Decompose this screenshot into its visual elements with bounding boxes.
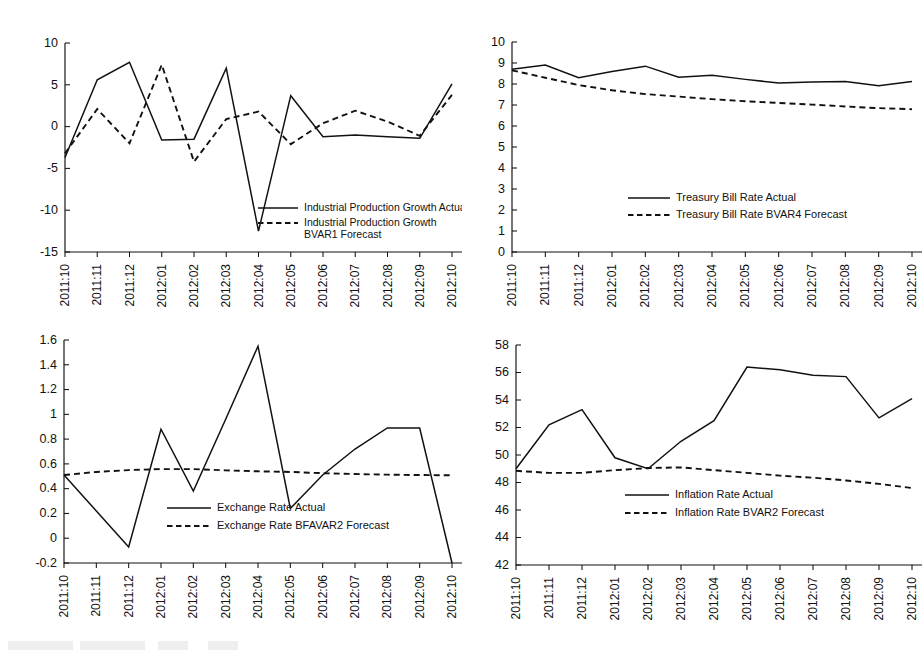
- x-axis-tick-label: 2012:04: [707, 577, 721, 621]
- y-axis-tick-label: 0.4: [40, 481, 57, 495]
- y-axis-tick-label: 0: [50, 531, 57, 545]
- x-axis-tick-label: 2012:05: [283, 575, 297, 619]
- y-axis-tick-label: -0.2: [35, 556, 57, 570]
- x-axis-tick-label: 2012:05: [740, 577, 754, 621]
- y-axis-tick-label: 1.4: [40, 358, 57, 372]
- x-axis-tick-label: 2012:01: [608, 577, 622, 621]
- y-axis-tick-label: 52: [495, 420, 509, 434]
- y-axis-tick-label: 50: [495, 448, 509, 462]
- y-axis-tick-label: -15: [40, 245, 58, 259]
- series-line-forecast: [65, 65, 452, 162]
- x-axis-tick-label: 2011:11: [90, 264, 104, 306]
- x-axis-tick-label: 2012:06: [316, 264, 330, 308]
- x-axis-tick-label: 2011:10: [509, 577, 523, 620]
- x-axis-tick-label: 2012:04: [705, 264, 719, 308]
- chart-panel-exchange-rate: -0.200.20.40.60.811.21.41.62011:102011:1…: [0, 320, 462, 654]
- y-axis-tick-label: 1.6: [40, 333, 57, 347]
- x-axis-tick-label: 2012:02: [638, 264, 652, 308]
- x-axis-tick-label: 2012:09: [872, 577, 886, 621]
- y-axis-tick-label: 10: [491, 35, 505, 49]
- chart-legend: Industrial Production Growth ActualIndus…: [258, 201, 462, 240]
- x-axis-tick-label: 2012:03: [674, 577, 688, 621]
- series-line-actual: [512, 65, 912, 86]
- x-axis-tick-label: 2012:06: [772, 264, 786, 308]
- y-axis-tick-label: 1: [498, 224, 505, 238]
- legend-label: Inflation Rate Actual: [675, 488, 773, 500]
- x-axis-tick-label: 2011:10: [58, 264, 72, 307]
- chart-legend: Exchange Rate ActualExchange Rate BFAVAR…: [167, 501, 389, 531]
- x-axis-tick-label: 2012:02: [187, 264, 201, 308]
- x-axis-tick-label: 2012:08: [839, 577, 853, 621]
- y-axis-tick-label: 1: [50, 407, 57, 421]
- x-axis-tick-label: 2012:09: [413, 264, 427, 308]
- y-axis-tick-label: 48: [495, 475, 509, 489]
- legend-label: Treasury Bill Rate Actual: [676, 191, 796, 203]
- x-axis-tick-label: 2012:09: [413, 575, 427, 619]
- y-axis-tick-label: 3: [498, 182, 505, 196]
- industrial-production-plot: -15-10-505102011:102011:112011:122012:01…: [0, 0, 462, 327]
- x-axis-tick-label: 2012:07: [348, 575, 362, 619]
- x-axis-tick-label: 2012:03: [219, 575, 233, 619]
- x-axis-tick-label: 2011:12: [122, 575, 136, 618]
- y-axis-tick-label: 0: [51, 119, 58, 133]
- x-axis-tick-label: 2011:12: [123, 264, 137, 307]
- y-axis-tick-label: 54: [495, 393, 509, 407]
- legend-label-continued: BVAR1 Forecast: [304, 228, 381, 240]
- y-axis-tick-label: 9: [498, 56, 505, 70]
- legend-label: Industrial Production Growth: [304, 216, 437, 228]
- x-axis-tick-label: 2011:11: [89, 575, 103, 617]
- x-axis-tick-label: 2012:07: [806, 577, 820, 621]
- x-axis-tick-label: 2012:02: [641, 577, 655, 621]
- exchange-rate-plot: -0.200.20.40.60.811.21.41.62011:102011:1…: [0, 320, 462, 654]
- legend-label: Treasury Bill Rate BVAR4 Forecast: [676, 208, 847, 220]
- y-axis-tick-label: 0: [498, 245, 505, 259]
- x-axis-tick-label: 2012:04: [251, 575, 265, 619]
- inflation-rate-plot: 4244464850525456582011:102011:112011:122…: [461, 320, 923, 654]
- x-axis-tick-label: 2012:03: [672, 264, 686, 308]
- chart-legend: Inflation Rate ActualInflation Rate BVAR…: [625, 488, 824, 518]
- x-axis-tick-label: 2011:12: [575, 577, 589, 620]
- x-axis-tick-label: 2012:01: [154, 575, 168, 619]
- series-line-forecast: [516, 467, 912, 488]
- y-axis-tick-label: 56: [495, 365, 509, 379]
- series-line-forecast: [512, 70, 912, 109]
- y-axis-tick-label: 0.6: [40, 457, 57, 471]
- x-axis-tick-label: 2011:10: [57, 575, 71, 618]
- chart-panel-industrial-production: -15-10-505102011:102011:112011:122012:01…: [0, 0, 462, 327]
- x-axis-tick-label: 2012:08: [381, 264, 395, 308]
- legend-label: Inflation Rate BVAR2 Forecast: [675, 506, 824, 518]
- legend-label: Industrial Production Growth Actual: [304, 201, 462, 213]
- legend-label: Exchange Rate Actual: [217, 501, 325, 513]
- page-caption-cutoff: [8, 641, 258, 650]
- figure-panel-grid: -15-10-505102011:102011:112011:122012:01…: [0, 0, 923, 654]
- x-axis-tick-label: 2012:07: [805, 264, 819, 308]
- y-axis-tick-label: 1.2: [40, 382, 57, 396]
- y-axis-tick-label: 42: [495, 558, 509, 572]
- x-axis-tick-label: 2012:10: [905, 577, 919, 621]
- x-axis-tick-label: 2011:10: [505, 264, 519, 307]
- treasury-bill-rate-plot: 0123456789102011:102011:112011:122012:01…: [461, 0, 923, 327]
- x-axis-tick-label: 2012:10: [905, 264, 919, 308]
- y-axis-tick-label: 7: [498, 98, 505, 112]
- y-axis-tick-label: 8: [498, 77, 505, 91]
- y-axis-tick-label: 5: [51, 78, 58, 92]
- x-axis-tick-label: 2011:11: [538, 264, 552, 306]
- x-axis-tick-label: 2012:06: [773, 577, 787, 621]
- x-axis-tick-label: 2012:05: [738, 264, 752, 308]
- x-axis-tick-label: 2012:05: [284, 264, 298, 308]
- series-line-actual: [516, 367, 912, 469]
- x-axis-tick-label: 2012:10: [445, 575, 459, 619]
- y-axis-tick-label: 0.8: [40, 432, 57, 446]
- x-axis-tick-label: 2011:11: [542, 577, 556, 619]
- series-line-forecast: [64, 469, 452, 475]
- chart-panel-treasury-bill-rate: 0123456789102011:102011:112011:122012:01…: [461, 0, 923, 327]
- y-axis-tick-label: 2: [498, 203, 505, 217]
- x-axis-tick-label: 2012:04: [252, 264, 266, 308]
- x-axis-tick-label: 2012:01: [155, 264, 169, 308]
- x-axis-tick-label: 2012:08: [380, 575, 394, 619]
- x-axis-tick-label: 2012:03: [219, 264, 233, 308]
- y-axis-tick-label: 46: [495, 503, 509, 517]
- x-axis-tick-label: 2011:12: [572, 264, 586, 307]
- x-axis-tick-label: 2012:08: [838, 264, 852, 308]
- x-axis-tick-label: 2012:01: [605, 264, 619, 308]
